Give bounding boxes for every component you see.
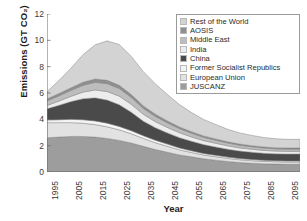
legend-swatch-icon [180, 83, 187, 90]
legend-item-label: India [190, 46, 206, 54]
x-axis-title: Year [47, 203, 300, 214]
legend-swatch-icon [180, 37, 187, 44]
legend-swatch-icon [180, 55, 187, 62]
x-tick-label: 2005 [75, 181, 84, 200]
x-tick-label: 2045 [171, 181, 180, 200]
x-tick-label: 2055 [195, 181, 204, 200]
legend-item: Former Socialist Republics [180, 63, 296, 72]
y-tick-label: 2 [26, 142, 44, 151]
legend-item-label: Former Socialist Republics [190, 64, 280, 72]
legend-item-label: JUSCANZ [190, 83, 225, 91]
legend-item: Middle East [180, 36, 296, 45]
x-tick-label: 2035 [147, 181, 156, 200]
x-tick-label: 2015 [99, 181, 108, 200]
legend-swatch-icon [180, 18, 187, 25]
legend-item: India [180, 45, 296, 54]
x-tick-label: 2085 [267, 181, 276, 200]
legend-item: AOSIS [180, 26, 296, 35]
x-tick-label: 1995 [51, 181, 60, 200]
legend-swatch-icon [180, 74, 187, 81]
legend-item-label: Rest of the World [190, 18, 249, 26]
legend-item: China [180, 54, 296, 63]
x-tick-label: 2095 [291, 181, 300, 200]
y-tick-label: 0 [26, 168, 44, 177]
legend-item-label: Middle East [190, 36, 230, 44]
emissions-stacked-area-chart: Emissions (GT CO₂) 121086420 19952005201… [0, 0, 307, 221]
legend: Rest of the WorldAOSISMiddle EastIndiaCh… [176, 14, 300, 94]
y-tick-label: 4 [26, 115, 44, 124]
legend-swatch-icon [180, 65, 187, 72]
x-tick-label: 2025 [123, 181, 132, 200]
legend-swatch-icon [180, 46, 187, 53]
legend-item-label: China [190, 55, 210, 63]
legend-swatch-icon [180, 27, 187, 34]
legend-item-label: AOSIS [190, 27, 213, 35]
legend-item: JUSCANZ [180, 82, 296, 91]
legend-item-label: European Union [190, 74, 245, 82]
x-tick-label: 2065 [219, 181, 228, 200]
x-tick-label: 2075 [243, 181, 252, 200]
y-tick-label: 12 [26, 10, 44, 19]
legend-item: European Union [180, 73, 296, 82]
legend-item: Rest of the World [180, 17, 296, 26]
y-axis-tick-labels: 121086420 [22, 0, 44, 221]
y-tick-label: 8 [26, 63, 44, 72]
y-tick-label: 10 [26, 36, 44, 45]
y-tick-label: 6 [26, 89, 44, 98]
